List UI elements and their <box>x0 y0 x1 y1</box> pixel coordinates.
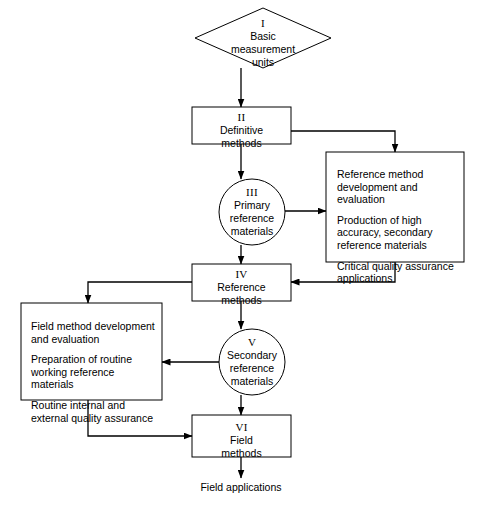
node-shape-secondary-reference-materials <box>219 329 285 395</box>
node-shape-field-methods <box>192 415 291 457</box>
footer-field-applications: Field applications <box>161 481 321 493</box>
node-shape-reference-methods <box>192 264 291 301</box>
connector-left-panel-to-field-methods <box>88 400 192 436</box>
connector-right-panel-to-reference-methods <box>291 262 395 282</box>
node-shape-definitive-methods <box>192 107 291 144</box>
connector-definitive-methods-to-right-panel <box>291 131 395 152</box>
flowchart-diagram: I Basic measurement units II Definitive … <box>0 0 485 511</box>
panel-shape-left <box>21 303 162 400</box>
node-shape-primary-reference-materials <box>219 179 285 245</box>
node-shape-basic-units <box>195 8 331 68</box>
flowchart-connectors-layer <box>0 0 485 511</box>
panel-shape-right <box>326 152 464 262</box>
connector-reference-methods-to-left-panel <box>88 282 192 303</box>
